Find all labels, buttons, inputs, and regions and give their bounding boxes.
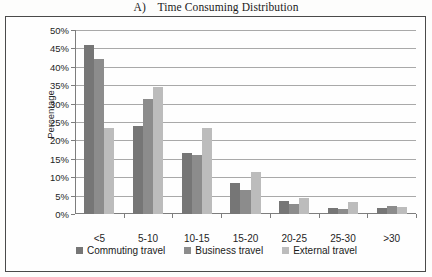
y-tick-mark <box>71 104 75 105</box>
y-tick-label: 25% <box>50 117 69 128</box>
legend-item[interactable]: Business travel <box>184 245 263 256</box>
bar <box>143 99 153 214</box>
y-tick-label: 5% <box>55 190 69 201</box>
y-tick-mark <box>71 85 75 86</box>
y-tick-label: 30% <box>50 98 69 109</box>
legend-swatch-icon <box>282 247 289 254</box>
x-tick-mark <box>124 214 125 218</box>
bar-group <box>328 30 358 214</box>
legend-label: External travel <box>293 245 357 256</box>
bar <box>279 201 289 214</box>
plot-inner: 0%5%10%15%20%25%30%35%40%45%50% <box>75 30 416 214</box>
bar <box>182 153 192 214</box>
chart-frame: Percentage 0%5%10%15%20%25%30%35%40%45%5… <box>5 16 426 272</box>
bar-group <box>84 30 114 214</box>
x-tick-mark <box>221 214 222 218</box>
legend-label: Commuting travel <box>87 245 165 256</box>
bar <box>338 209 348 214</box>
bar <box>377 208 387 214</box>
bar <box>192 155 202 214</box>
y-axis-line <box>75 30 76 214</box>
legend-swatch-icon <box>76 247 83 254</box>
x-tick-label: 10-15 <box>184 233 210 244</box>
x-tick-mark <box>172 214 173 218</box>
legend-item[interactable]: External travel <box>282 245 357 256</box>
x-tick-mark <box>319 214 320 218</box>
bar <box>84 45 94 214</box>
x-tick-mark <box>416 214 417 218</box>
bar <box>289 204 299 214</box>
bar-group <box>279 30 309 214</box>
bar-group <box>182 30 212 214</box>
x-tick-label: 25-30 <box>330 233 356 244</box>
bar <box>94 59 104 214</box>
bar <box>133 126 143 214</box>
x-tick-label: <5 <box>94 233 105 244</box>
bar <box>328 208 338 214</box>
y-tick-mark <box>71 140 75 141</box>
y-tick-label: 10% <box>50 172 69 183</box>
bar <box>153 87 163 214</box>
bar-group <box>133 30 163 214</box>
bar-group <box>230 30 260 214</box>
x-tick-label: >30 <box>383 233 400 244</box>
bar <box>348 202 358 214</box>
bar <box>104 128 114 214</box>
legend-swatch-icon <box>184 247 191 254</box>
y-tick-mark <box>71 196 75 197</box>
y-tick-mark <box>71 122 75 123</box>
legend-item[interactable]: Commuting travel <box>76 245 165 256</box>
y-tick-label: 50% <box>50 25 69 36</box>
bar <box>240 190 250 214</box>
y-tick-label: 20% <box>50 135 69 146</box>
x-tick-mark <box>270 214 271 218</box>
y-tick-mark <box>71 67 75 68</box>
y-tick-label: 0% <box>55 209 69 220</box>
y-tick-mark <box>71 48 75 49</box>
legend-label: Business travel <box>195 245 263 256</box>
chart-legend: Commuting travelBusiness travelExternal … <box>6 245 427 256</box>
x-tick-label: 5-10 <box>138 233 158 244</box>
y-tick-mark <box>71 30 75 31</box>
figure-title: A) Time Consuming Distribution <box>0 1 432 13</box>
y-tick-mark <box>71 159 75 160</box>
y-tick-label: 35% <box>50 80 69 91</box>
bar <box>202 128 212 214</box>
bar-group <box>377 30 407 214</box>
bar <box>230 183 240 214</box>
y-tick-mark <box>71 177 75 178</box>
x-tick-label: 15-20 <box>233 233 259 244</box>
plot-area: 0%5%10%15%20%25%30%35%40%45%50% <55-1010… <box>75 30 416 214</box>
x-tick-label: 20-25 <box>281 233 307 244</box>
figure-page: A) Time Consuming Distribution Percentag… <box>0 0 432 277</box>
bar <box>251 172 261 214</box>
bar <box>299 198 309 214</box>
y-tick-mark <box>71 214 75 215</box>
bar <box>397 207 407 214</box>
x-tick-mark <box>367 214 368 218</box>
y-tick-label: 45% <box>50 43 69 54</box>
y-tick-label: 15% <box>50 153 69 164</box>
y-tick-label: 40% <box>50 61 69 72</box>
bar <box>387 206 397 214</box>
